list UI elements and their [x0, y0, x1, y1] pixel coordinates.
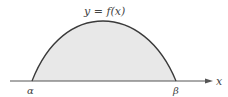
shaded-region — [32, 21, 176, 81]
beta-label: β — [172, 85, 179, 96]
x-axis-label: x — [216, 75, 223, 88]
x-axis-arrow-icon — [205, 79, 213, 84]
alpha-label: α — [27, 85, 34, 96]
curve-label: y = f(x) — [83, 5, 125, 18]
area-under-curve-diagram: y = f(x) x α β — [0, 0, 228, 97]
